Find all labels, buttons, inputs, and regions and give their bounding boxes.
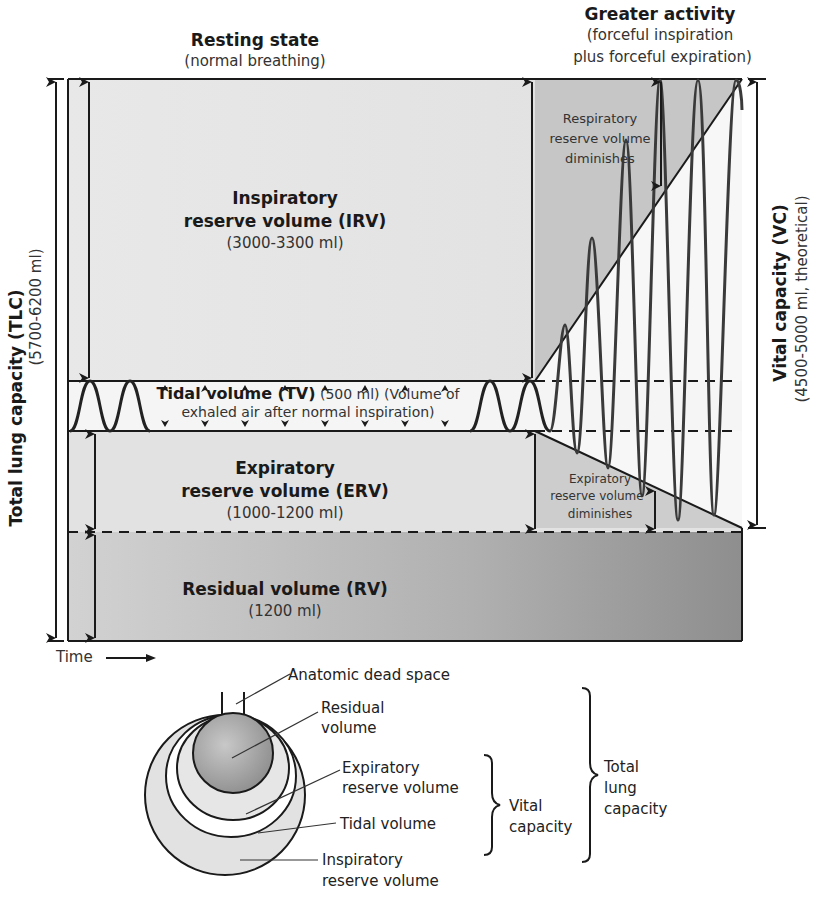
tlc-value: (5700-6200 ml) (27, 217, 45, 397)
vital-capacity-label-2: capacity (509, 817, 572, 837)
total-lung-capacity-label-3: capacity (604, 799, 667, 819)
expiratory-label-1: Expiratory (342, 758, 420, 778)
irv-value: (3000-3300 ml) (160, 233, 410, 253)
residual-label-1: Residual (321, 698, 384, 718)
erv-diminishes-1: Expiratory (545, 471, 655, 488)
erv-diminishes-3: diminishes (545, 506, 655, 523)
erv-label-1: Expiratory (150, 457, 420, 479)
dead-space-label: Anatomic dead space (288, 665, 450, 685)
rv-value: (1200 ml) (150, 601, 420, 621)
tv-label: Tidal volume (TV) (500 ml) (Volume of (146, 384, 470, 404)
residual-label-2: volume (321, 718, 377, 738)
irv-diminishes-3: diminishes (545, 150, 655, 167)
resting-state-subtitle: (normal breathing) (140, 52, 370, 70)
irv-label-1: Inspiratory (160, 187, 410, 209)
greater-activity-subtitle-2: plus forceful expiration) (530, 48, 795, 66)
vital-capacity-label-1: Vital (509, 796, 542, 816)
vc-value: (4500-5000 ml, theoretical) (793, 169, 811, 429)
irv-diminishes-1: Respiratory (545, 110, 655, 127)
erv-label-2: reserve volume (ERV) (150, 480, 420, 502)
time-label: Time (56, 648, 93, 666)
inspiratory-label-1: Inspiratory (322, 850, 403, 870)
total-lung-capacity-label-2: lung (604, 778, 637, 798)
tlc-title: Total lung capacity (TLC) (6, 288, 26, 528)
greater-activity-title: Greater activity (560, 4, 760, 24)
inspiratory-label-2: reserve volume (322, 871, 439, 891)
tv-label-bold: Tidal volume (TV) (156, 384, 315, 403)
erv-diminishes-2: reserve volume (538, 488, 656, 505)
vc-title: Vital capacity (VC) (770, 193, 790, 393)
rv-label: Residual volume (RV) (150, 578, 420, 600)
irv-diminishes-2: reserve volume (540, 130, 660, 147)
erv-value: (1000-1200 ml) (150, 503, 420, 523)
resting-state-title: Resting state (170, 30, 340, 50)
tv-label-2: exhaled air after normal inspiration) (146, 404, 470, 420)
greater-activity-subtitle-1: (forceful inspiration (540, 26, 780, 44)
tidal-label: Tidal volume (340, 814, 436, 834)
expiratory-label-2: reserve volume (342, 778, 459, 798)
total-lung-capacity-label-1: Total (604, 757, 639, 777)
tv-label-rest: (500 ml) (Volume of (316, 386, 460, 402)
irv-label-2: reserve volume (IRV) (160, 210, 410, 232)
